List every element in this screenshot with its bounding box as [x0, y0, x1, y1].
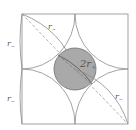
label-diag-bottom: r−	[115, 92, 123, 102]
geometry-diagram: 2r+ r− r− r− r−	[0, 0, 136, 130]
label-left-top: r−	[7, 39, 15, 49]
label-diag-top: r−	[48, 22, 56, 32]
label-left-bottom: r−	[7, 94, 15, 104]
